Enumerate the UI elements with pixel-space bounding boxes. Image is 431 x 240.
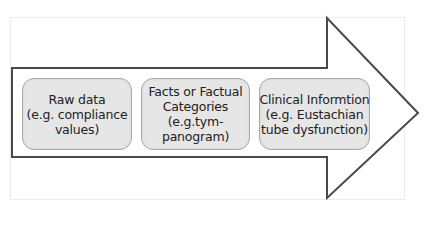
step-text-line: values)	[55, 122, 99, 137]
step-text-line: panogram)	[162, 129, 229, 144]
step-text-line: Clinical Informtion	[260, 92, 370, 107]
step-facts-categories: Facts or Factual Categories (e.g.tym- pa…	[141, 78, 250, 150]
step-clinical-information: Clinical Informtion (e.g. Eustachian tub…	[259, 78, 370, 150]
step-text-line: (e.g. compliance	[27, 107, 128, 122]
step-text-line: (e.g. Eustachian	[266, 107, 364, 122]
step-raw-data: Raw data (e.g. compliance values)	[22, 78, 132, 150]
step-text-line: Raw data	[49, 92, 106, 107]
step-text-line: Categories	[163, 99, 228, 114]
step-text-line: (e.g.tym-	[168, 114, 224, 129]
step-text-line: tube dysfunction)	[261, 122, 368, 137]
step-text-line: Facts or Factual	[148, 84, 242, 99]
